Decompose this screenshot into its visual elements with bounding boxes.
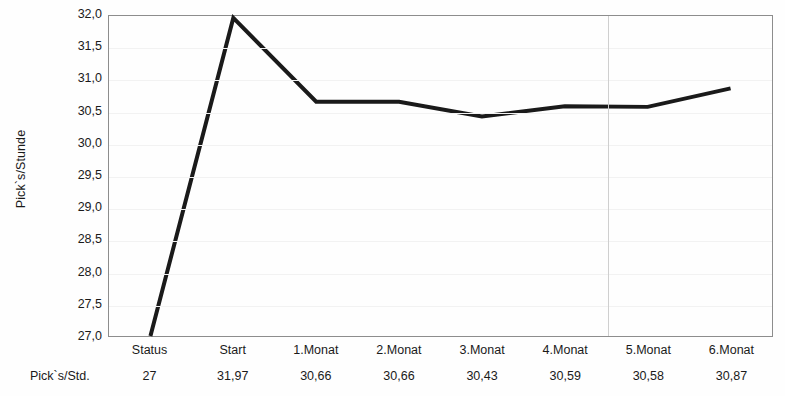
data-table-cell: 30,58 [633,367,664,385]
data-table-cell: 30,66 [383,367,414,385]
data-table-cell: 27 [143,367,157,385]
y-axis-title: Pick`s/Stunde [14,109,28,229]
y-axis-tick-label: 29,5 [52,169,102,182]
y-axis-tick-label: 28,0 [52,266,102,279]
x-axis-category-label: Status [132,341,167,359]
data-table-row-header: Pick`s/Std. [30,367,108,385]
x-axis-category-labels: StatusStart1.Monat2.Monat3.Monat4.Monat5… [108,341,773,361]
y-axis-tick-label: 32,0 [52,8,102,21]
data-table-values: 2731,9730,6630,6630,4330,5930,5830,87 [108,367,773,387]
horizontal-gridline [109,177,772,178]
horizontal-gridline [109,306,772,307]
y-axis-tick-label: 30,5 [52,105,102,118]
y-axis-tick-label: 31,5 [52,40,102,53]
data-table-cell: 31,97 [217,367,248,385]
horizontal-gridline [109,145,772,146]
horizontal-gridline [109,209,772,210]
horizontal-gridline [109,241,772,242]
y-axis-tick-label: 28,5 [52,233,102,246]
x-axis-category-label: 3.Monat [459,341,504,359]
y-axis-tick-label: 30,0 [52,137,102,150]
plot-area [108,15,773,337]
horizontal-gridline [109,113,772,114]
horizontal-gridline [109,80,772,81]
series-line [109,16,772,336]
x-axis-category-label: 5.Monat [626,341,671,359]
data-table-cell: 30,66 [300,367,331,385]
y-axis-tick-label: 27,5 [52,298,102,311]
y-axis-tick-label: 29,0 [52,201,102,214]
line-chart: Pick`s/Stunde 32,031,531,030,530,029,529… [0,0,785,396]
data-table-cell: 30,87 [716,367,747,385]
y-axis-tick-label: 31,0 [52,72,102,85]
x-axis-category-label: 2.Monat [376,341,421,359]
data-table-cell: 30,43 [466,367,497,385]
x-axis-category-label: 6.Monat [709,341,754,359]
vertical-gridline [608,16,609,336]
horizontal-gridline [109,48,772,49]
data-table-cell: 30,59 [550,367,581,385]
y-axis-tick-labels: 32,031,531,030,530,029,529,028,528,027,5… [52,15,102,337]
x-axis-category-label: 4.Monat [543,341,588,359]
horizontal-gridline [109,274,772,275]
y-axis-tick-label: 27,0 [52,330,102,343]
x-axis-category-label: Start [219,341,245,359]
x-axis-category-label: 1.Monat [293,341,338,359]
